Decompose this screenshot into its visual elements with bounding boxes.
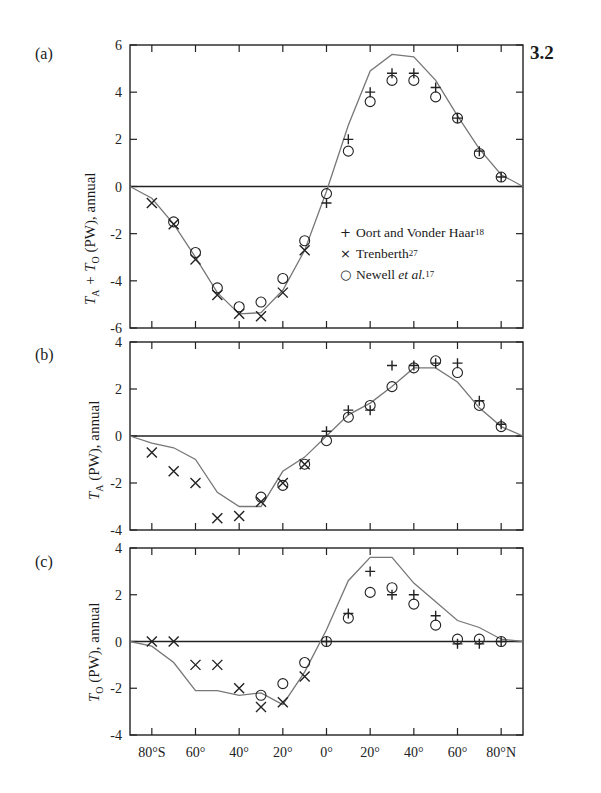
cross-marker-icon xyxy=(147,447,157,457)
cross-marker-icon xyxy=(212,660,222,670)
y-tick-label: -4 xyxy=(110,523,122,538)
legend: + Oort and Vonder Haar18 × Trenberth27 ○… xyxy=(340,222,484,285)
y-tick-label: -4 xyxy=(110,728,122,743)
y-tick-label: 0 xyxy=(115,180,122,195)
circle-marker-icon xyxy=(169,217,179,227)
plus-marker-icon xyxy=(365,566,375,576)
y-tick-label: 6 xyxy=(115,38,122,53)
x-tick-label: 60° xyxy=(186,745,206,760)
plus-marker-icon xyxy=(322,426,332,436)
circle-marker-icon xyxy=(365,587,375,597)
y-tick-label: 2 xyxy=(115,132,122,147)
plus-marker-icon xyxy=(409,361,419,371)
cross-marker-icon xyxy=(169,466,179,476)
y-tick-label: -2 xyxy=(110,476,122,491)
plus-marker-icon xyxy=(431,611,441,621)
circle-marker-icon xyxy=(256,492,266,502)
y-tick-label: -2 xyxy=(110,681,122,696)
x-tick-label: 80°N xyxy=(486,745,516,760)
model-line xyxy=(130,557,523,704)
plus-marker-icon xyxy=(474,146,484,156)
y-tick-label: 0 xyxy=(115,635,122,650)
cross-marker-icon xyxy=(278,478,288,488)
circle-marker-icon xyxy=(322,436,332,446)
circle-marker-icon xyxy=(278,273,288,283)
circle-marker-icon xyxy=(234,302,244,312)
cross-marker-icon xyxy=(191,660,201,670)
x-tick-label: 80°S xyxy=(138,745,165,760)
circle-marker-icon xyxy=(431,92,441,102)
circle-marker-icon xyxy=(343,146,353,156)
y-tick-label: 4 xyxy=(115,335,122,350)
circle-marker-icon xyxy=(256,297,266,307)
plus-marker-icon xyxy=(431,358,441,368)
y-tick-label: 4 xyxy=(115,541,122,556)
plus-marker-icon xyxy=(365,87,375,97)
y-tick-label: 4 xyxy=(115,85,122,100)
x-tick-label: 20° xyxy=(273,745,293,760)
y-tick-label: -2 xyxy=(110,227,122,242)
cross-marker-icon xyxy=(234,511,244,521)
plus-marker-icon xyxy=(453,358,463,368)
legend-item-trenberth: × Trenberth27 xyxy=(340,243,484,264)
y-tick-label: 2 xyxy=(115,588,122,603)
cross-marker-icon xyxy=(169,219,179,229)
circle-marker-icon xyxy=(453,368,463,378)
plus-marker-icon xyxy=(387,361,397,371)
cross-marker-icon xyxy=(234,683,244,693)
y-tick-label: 0 xyxy=(115,429,122,444)
x-tick-label: 0° xyxy=(320,745,333,760)
circle-marker-icon xyxy=(365,97,375,107)
figure-plots: -6-4-20246-4-2024-4-202480°S60°40°20°0°2… xyxy=(0,0,601,793)
circle-marker-icon: ○ xyxy=(340,264,356,285)
cross-marker-icon xyxy=(300,245,310,255)
legend-item-oort: + Oort and Vonder Haar18 xyxy=(340,222,484,243)
x-tick-label: 40° xyxy=(404,745,424,760)
cross-marker-icon xyxy=(191,478,201,488)
plus-marker-icon xyxy=(409,590,419,600)
circle-marker-icon xyxy=(431,620,441,630)
cross-marker-icon xyxy=(256,702,266,712)
x-tick-label: 60° xyxy=(448,745,468,760)
circle-marker-icon xyxy=(409,599,419,609)
plus-marker-icon xyxy=(431,82,441,92)
circle-marker-icon xyxy=(300,658,310,668)
model-line xyxy=(130,368,523,507)
y-tick-label: -6 xyxy=(110,321,122,336)
x-tick-label: 20° xyxy=(360,745,380,760)
plus-marker-icon: + xyxy=(340,222,356,243)
circle-marker-icon xyxy=(278,480,288,490)
legend-item-newell: ○ Newell et al.17 xyxy=(340,264,484,285)
y-tick-label: -4 xyxy=(110,274,122,289)
circle-marker-icon xyxy=(278,679,288,689)
y-tick-label: 2 xyxy=(115,382,122,397)
cross-marker-icon xyxy=(212,513,222,523)
cross-marker-icon: × xyxy=(340,243,356,264)
x-tick-label: 40° xyxy=(229,745,249,760)
